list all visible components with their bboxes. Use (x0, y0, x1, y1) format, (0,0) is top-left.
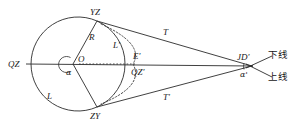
label-alpha-prime: α' (240, 71, 248, 79)
angle-alpha-prime-arc (243, 64, 244, 70)
radius-line-upper (73, 21, 97, 64)
label-yz: YZ (90, 8, 100, 17)
label-t-prime: T' (163, 93, 170, 102)
label-qz: QZ (8, 60, 20, 69)
label-l: L (47, 92, 52, 101)
label-t: T (163, 28, 168, 37)
label-alpha: α (66, 69, 71, 77)
tangent-line-lower (97, 66, 252, 107)
label-o: O (78, 55, 85, 64)
label-lower-line-cn: 下线 (268, 50, 288, 60)
label-qz-prime: QZ' (131, 68, 144, 77)
label-r: R (89, 33, 95, 42)
label-e-prime: E' (133, 52, 140, 61)
label-jd-prime: JD' (237, 53, 249, 62)
axis-line (26, 64, 252, 66)
curve-geometry-diagram (0, 0, 299, 132)
radius-line-lower (73, 64, 97, 107)
apex-point-dot (251, 65, 253, 67)
label-l-prime: L' (113, 41, 120, 50)
label-upper-line-cn: 上线 (268, 72, 288, 82)
label-zy: ZY (90, 112, 100, 121)
